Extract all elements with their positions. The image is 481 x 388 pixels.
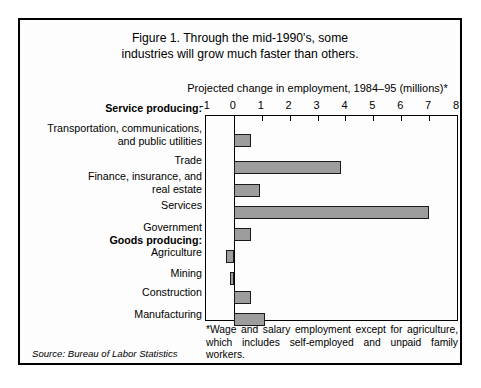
bar-finance-insurance-and — [234, 184, 260, 197]
category-label-services: Services — [24, 199, 202, 212]
bar-services — [234, 206, 429, 219]
x-tick-label-6: 6 — [388, 98, 412, 112]
x-tick-mark — [373, 116, 374, 121]
title-line-2: industries will grow much faster than ot… — [20, 46, 460, 62]
x-tick-mark — [345, 116, 346, 121]
x-tick-label-5: 5 — [360, 98, 384, 112]
plot-area — [205, 115, 458, 321]
category-label-agriculture: Agriculture — [24, 246, 202, 259]
category-label-transportation-communications: Transportation, communications, and publ… — [24, 122, 202, 148]
x-tick-mark — [401, 116, 402, 121]
x-axis-tick-labels: -1012345678 — [205, 98, 458, 113]
title-line-1: Figure 1. Through the mid-1990's, some — [20, 30, 460, 46]
x-tick-mark — [290, 116, 291, 121]
category-axis-labels: Service producing:Transportation, commun… — [24, 115, 202, 321]
bar-government — [234, 228, 251, 241]
x-tick-label-4: 4 — [332, 98, 356, 112]
x-tick-label-2: 2 — [277, 98, 301, 112]
figure-title: Figure 1. Through the mid-1990's, some i… — [20, 30, 460, 62]
category-label-mining: Mining — [24, 267, 202, 280]
x-tick-label-1: 1 — [249, 98, 273, 112]
bar-mining — [230, 272, 234, 285]
bar-agriculture — [226, 250, 234, 263]
axis-caption: Projected change in employment, 1984–95 … — [180, 82, 455, 94]
x-tick-mark — [318, 116, 319, 121]
footnote: *Wage and salary employment except for a… — [206, 324, 458, 362]
x-tick-mark — [262, 116, 263, 121]
category-label-manufacturing: Manufacturing — [24, 308, 202, 321]
x-tick-mark — [234, 116, 235, 121]
x-tick-label-3: 3 — [305, 98, 329, 112]
x-tick-label-0: 0 — [221, 98, 245, 112]
x-tick-label-8: 8 — [444, 98, 468, 112]
category-label-government: Government — [24, 221, 202, 234]
bar-construction — [234, 291, 251, 304]
x-tick-label-7: 7 — [416, 98, 440, 112]
source-credit: Source: Bureau of Labor Statistics — [32, 348, 178, 359]
bar-trade — [234, 161, 341, 174]
category-label-construction: Construction — [24, 286, 202, 299]
group-label-service-producing: Service producing: — [24, 102, 202, 115]
x-tick-mark — [429, 116, 430, 121]
bar-transportation-communications — [234, 134, 251, 147]
category-label-trade: Trade — [24, 154, 202, 167]
figure-frame: Figure 1. Through the mid-1990's, some i… — [18, 18, 462, 365]
category-label-finance-insurance-and: Finance, insurance, and real estate — [24, 170, 202, 196]
